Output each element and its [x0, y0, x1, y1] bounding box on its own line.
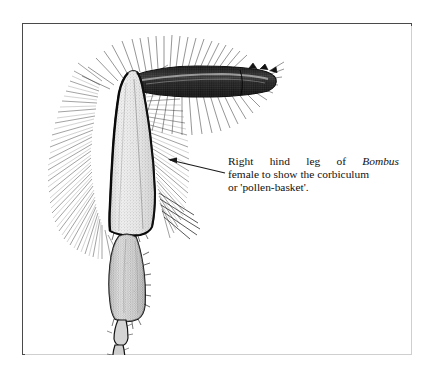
caption-genus-bombus: Bombus [362, 155, 399, 168]
hair-fringe-tibia-outer-fill [48, 76, 101, 259]
illustration-page: Right hind leg of Bombus female to show … [0, 0, 434, 378]
caption-word-of: of [336, 155, 346, 168]
caption-word-leg: leg [306, 155, 320, 168]
caption-word-right: Right [228, 155, 253, 168]
caption-word-hind: hind [270, 155, 290, 168]
basitarsus [109, 234, 151, 330]
figure-caption: Right hind leg of Bombus female to show … [228, 155, 399, 195]
pointer-arrow [160, 150, 235, 180]
caption-line-3: or 'pollen-basket'. [228, 181, 399, 194]
femur [130, 63, 277, 97]
hair-bristles-lower [159, 193, 200, 239]
caption-line-2: female to show the corbiculum [228, 168, 399, 181]
tarsal-segments [106, 320, 140, 355]
caption-line-1: Right hind leg of Bombus [228, 155, 399, 168]
